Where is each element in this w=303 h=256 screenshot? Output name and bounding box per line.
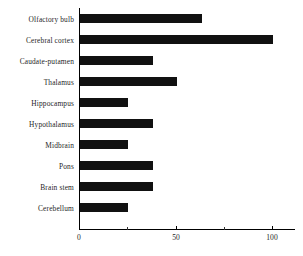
x-tick-major <box>79 226 80 230</box>
x-tick-label: 100 <box>257 233 287 243</box>
x-tick-major <box>272 226 273 230</box>
x-tick-minor <box>224 227 225 230</box>
x-tick-minor <box>127 227 128 230</box>
x-tick-label: 0 <box>64 233 94 243</box>
bar-chart: Olfactory bulbCerebral cortexCaudate-put… <box>0 0 303 256</box>
x-axis-ticks-layer: 050100 <box>0 0 303 256</box>
x-tick-major <box>176 226 177 230</box>
x-tick-label: 50 <box>161 233 191 243</box>
